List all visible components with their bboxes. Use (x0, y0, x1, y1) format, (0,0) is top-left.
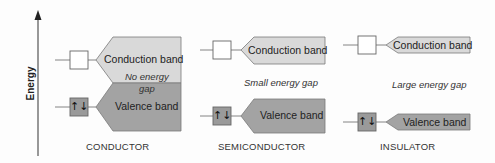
energy-axis (35, 10, 42, 156)
conductor-conduction-label: Conduction band (104, 53, 183, 65)
band-diagram: Energy ↑↓ ↑↓ ↑↓ Conduction band No energ… (0, 0, 495, 163)
insulator-valence-label: Valence band (403, 116, 466, 128)
empty-level-box (70, 51, 88, 69)
semiconductor-conduction-label: Conduction band (248, 44, 327, 56)
conductor-gap-label-line2: gap (139, 83, 155, 94)
conductor-graphics (55, 37, 181, 131)
energy-axis-label: Energy (25, 64, 36, 104)
spin-pair-icon: ↑↓ (213, 107, 231, 125)
insulator-gap-label: Large energy gap (392, 79, 466, 90)
conductor-category-label: CONDUCTOR (86, 141, 149, 152)
empty-level-box (213, 41, 231, 59)
arrow-up-icon (35, 10, 42, 20)
semiconductor-category-label: SEMICONDUCTOR (218, 141, 305, 152)
insulator-category-label: INSULATOR (380, 141, 435, 152)
spin-pair-icon: ↑↓ (358, 113, 376, 131)
conductor-gap-label-line1: No energy (125, 71, 169, 82)
empty-level-box (358, 36, 376, 54)
conductor-valence-label: Valence band (115, 100, 178, 112)
spin-pair-icon: ↑↓ (70, 98, 88, 116)
insulator-conduction-label: Conduction band (393, 39, 472, 51)
semiconductor-valence-label: Valence band (260, 109, 323, 121)
semiconductor-gap-label: Small energy gap (244, 77, 318, 88)
